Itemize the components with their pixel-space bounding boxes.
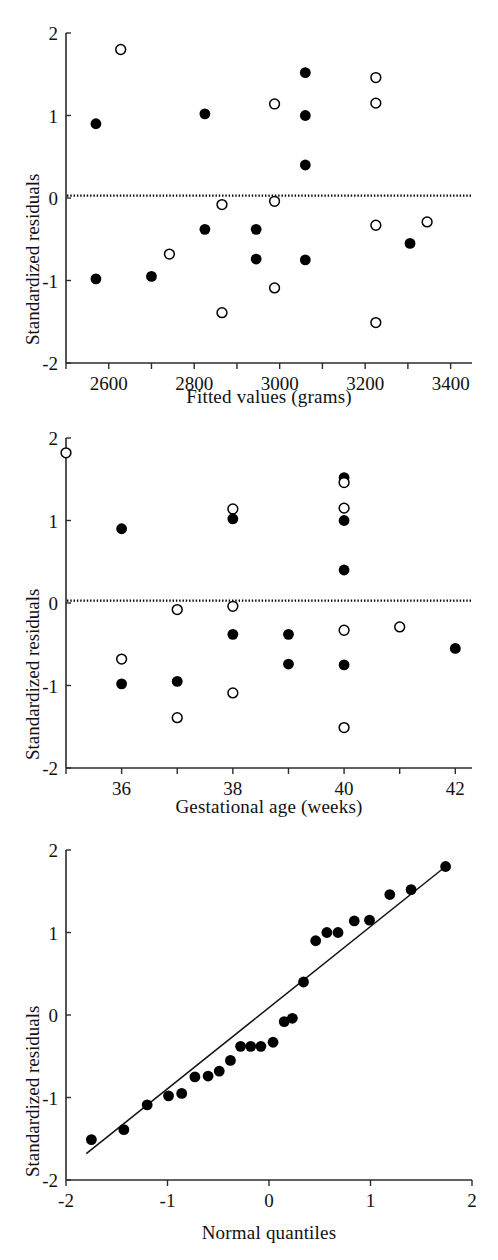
x-tick-label: 2	[467, 1190, 477, 1211]
data-point-open	[116, 45, 126, 55]
data-point-filled	[300, 110, 311, 121]
data-point-open	[228, 601, 238, 611]
plot-area: -2-1012-2-1012	[42, 840, 477, 1211]
x-tick-label: 1	[366, 1190, 376, 1211]
y-tick-label: -1	[42, 271, 58, 292]
y-tick-label: 0	[49, 1005, 59, 1026]
data-point-filled	[268, 1037, 279, 1048]
y-tick-label: -1	[42, 1088, 58, 1109]
data-point-filled	[300, 67, 311, 78]
data-point-filled	[176, 1088, 187, 1099]
y-tick-label: 2	[49, 428, 59, 449]
data-point-open	[395, 622, 405, 632]
figure-page: -2-101226002800300032003400 Standardized…	[0, 0, 498, 1260]
data-point-filled	[310, 935, 321, 946]
data-point-open	[339, 723, 349, 733]
data-point-filled	[227, 629, 238, 640]
normal-quantiles-plot: -2-1012-2-1012	[0, 832, 498, 1260]
data-point-filled	[300, 254, 311, 265]
data-point-filled	[227, 513, 238, 524]
data-point-filled	[203, 1071, 214, 1082]
x-tick-label: 0	[264, 1190, 274, 1211]
data-point-filled	[91, 118, 102, 129]
data-point-open	[117, 654, 127, 664]
y-tick-label: -2	[42, 1170, 58, 1191]
data-point-filled	[364, 915, 375, 926]
data-point-filled	[172, 676, 183, 687]
plot-area: -2-101226002800300032003400	[42, 23, 472, 394]
data-point-filled	[283, 659, 294, 670]
panel-fitted-values: -2-101226002800300032003400 Standardized…	[0, 0, 498, 420]
data-point-open	[270, 283, 280, 293]
panel-normal-quantiles: -2-1012-2-1012 Standardized residuals No…	[0, 832, 498, 1260]
data-point-open	[165, 249, 175, 259]
data-point-filled	[349, 916, 360, 927]
plot-area: -2-101236384042	[42, 428, 472, 799]
data-point-filled	[406, 884, 417, 895]
data-point-filled	[283, 629, 294, 640]
data-point-open	[339, 503, 349, 513]
fitted-x-axis-title: Fitted values (grams)	[20, 386, 498, 408]
data-point-open	[228, 688, 238, 698]
data-point-open	[228, 504, 238, 514]
data-point-filled	[450, 643, 461, 654]
data-point-open	[217, 200, 227, 210]
data-point-filled	[251, 224, 262, 235]
series-filled	[91, 67, 416, 284]
fitted-y-axis-title: Standardized residuals	[22, 174, 44, 345]
data-point-open	[270, 196, 280, 206]
data-point-filled	[300, 160, 311, 171]
data-point-open	[371, 220, 381, 230]
data-point-filled	[146, 271, 157, 282]
data-point-filled	[163, 1090, 174, 1101]
data-point-filled	[339, 659, 350, 670]
panel-gestational-age: -2-101236384042 Standardized residuals G…	[0, 420, 498, 832]
y-tick-label: 0	[49, 188, 59, 209]
data-point-open	[422, 217, 432, 227]
y-tick-label: 1	[49, 923, 59, 944]
data-point-open	[61, 448, 71, 458]
data-point-filled	[321, 927, 332, 938]
y-tick-label: 2	[49, 23, 59, 44]
data-point-filled	[142, 1100, 153, 1111]
data-point-filled	[339, 565, 350, 576]
data-point-filled	[245, 1041, 256, 1052]
data-point-filled	[225, 1055, 236, 1066]
data-point-open	[270, 99, 280, 109]
data-point-filled	[255, 1041, 266, 1052]
data-point-filled	[199, 224, 210, 235]
data-point-filled	[190, 1071, 201, 1082]
y-tick-label: 1	[49, 511, 59, 532]
data-point-filled	[214, 1066, 225, 1077]
data-point-open	[339, 625, 349, 635]
qq-reference-line	[86, 867, 445, 1154]
data-point-filled	[405, 238, 416, 249]
data-point-filled	[339, 515, 350, 526]
gestational-age-plot: -2-101236384042	[0, 420, 498, 832]
data-point-filled	[116, 523, 127, 534]
series-open	[116, 45, 432, 328]
data-point-filled	[333, 927, 344, 938]
data-point-open	[172, 713, 182, 723]
data-point-open	[339, 478, 349, 488]
y-tick-label: -2	[42, 758, 58, 779]
data-point-filled	[384, 889, 395, 900]
qq-y-axis-title: Standardized residuals	[22, 1006, 44, 1177]
data-point-filled	[91, 273, 102, 284]
data-point-filled	[235, 1041, 246, 1052]
y-tick-label: -1	[42, 676, 58, 697]
series-open	[61, 448, 404, 733]
y-tick-label: -2	[42, 353, 58, 374]
y-tick-label: 0	[49, 593, 59, 614]
data-point-filled	[287, 1013, 298, 1024]
data-point-filled	[440, 861, 451, 872]
y-tick-label: 1	[49, 106, 59, 127]
x-tick-label: -1	[160, 1190, 176, 1211]
x-tick-label: -2	[58, 1190, 74, 1211]
data-point-open	[371, 73, 381, 83]
data-point-filled	[251, 254, 262, 265]
data-point-open	[371, 318, 381, 328]
data-point-filled	[116, 678, 127, 689]
gestational-x-axis-title: Gestational age (weeks)	[20, 796, 498, 818]
data-point-filled	[298, 977, 309, 988]
